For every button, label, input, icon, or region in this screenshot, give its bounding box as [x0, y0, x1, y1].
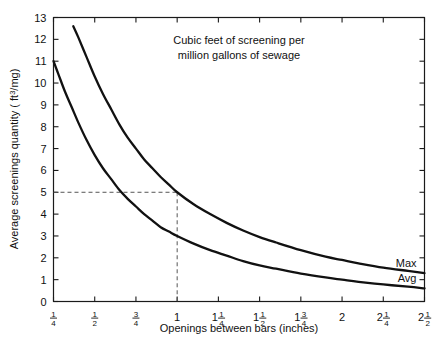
x-tick-label-numerator-1: 1: [92, 310, 97, 319]
x-tick-label-numerator-0: 1: [51, 310, 56, 319]
x-tick-label-denominator-1: 2: [92, 319, 97, 328]
y-axis-title: Average screenings quantity ( ft3/mg): [8, 69, 21, 250]
x-tick-label-whole-9: 2: [418, 311, 424, 323]
y-axis-title-prefix: Average screenings quantity ( ft: [8, 95, 20, 250]
y-axis-title-suffix: /mg): [8, 69, 20, 91]
x-tick-label-numerator-5: 1: [261, 310, 266, 319]
x-tick-label-denominator-2: 4: [134, 319, 139, 328]
x-tick-label-denominator-9: 2: [425, 319, 430, 328]
y-tick-label-10: 10: [34, 77, 46, 89]
y-tick-label-2: 2: [40, 252, 46, 264]
y-tick-label-4: 4: [40, 208, 46, 220]
screenings-quantity-chart: 012345678910111213 141234111411213422142…: [0, 0, 448, 343]
x-tick-label-7: 2: [339, 311, 345, 323]
y-tick-label-0: 0: [40, 296, 46, 308]
y-tick-label-11: 11: [35, 55, 46, 67]
x-tick-label-whole-5: 1: [253, 311, 259, 323]
x-tick-label-denominator-0: 4: [51, 319, 56, 328]
x-tick-label-numerator-9: 1: [425, 310, 430, 319]
y-tick-label-1: 1: [40, 274, 46, 286]
chart-annotation-line-2: million gallons of sewage: [178, 49, 300, 61]
x-tick-label-whole-4: 1: [212, 311, 218, 323]
x-axis-title: Openings between bars (inches): [160, 322, 318, 334]
x-tick-label-whole-3: 1: [174, 311, 180, 323]
x-tick-label-whole-7: 2: [339, 311, 345, 323]
y-tick-label-9: 9: [40, 99, 46, 111]
x-tick-label-numerator-4: 1: [219, 310, 224, 319]
y-tick-label-6: 6: [40, 164, 46, 176]
x-tick-label-denominator-8: 4: [384, 319, 389, 328]
series-label-max: Max: [396, 257, 417, 269]
x-tick-label-3: 1: [174, 311, 180, 323]
x-tick-label-numerator-6: 3: [302, 310, 307, 319]
x-tick-label-whole-8: 2: [377, 311, 383, 323]
x-tick-label-numerator-8: 1: [384, 310, 389, 319]
y-tick-label-12: 12: [34, 33, 46, 45]
chart-svg: 012345678910111213 141234111411213422142…: [0, 0, 448, 343]
series-label-avg: Avg: [398, 272, 417, 284]
x-tick-label-whole-6: 1: [294, 311, 300, 323]
y-tick-label-13: 13: [34, 12, 46, 24]
y-tick-label-5: 5: [40, 186, 46, 198]
y-tick-label-3: 3: [40, 230, 46, 242]
x-tick-label-numerator-2: 3: [134, 310, 139, 319]
y-tick-label-7: 7: [40, 143, 46, 155]
chart-annotation-line-1: Cubic feet of screening per: [173, 34, 305, 46]
y-tick-label-8: 8: [40, 121, 46, 133]
